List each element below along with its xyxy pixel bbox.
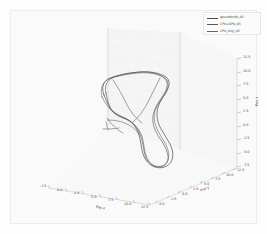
legend-item-cpu-only[interactable]: CPU_only_05: [206, 28, 258, 34]
z-tick-label: 2.5: [243, 110, 248, 113]
z-tick-label: 5.0: [243, 97, 248, 100]
pane-back-right: [180, 32, 237, 168]
z-tick-label: 7.5: [243, 83, 248, 86]
legend-item-cpu-gpu[interactable]: CPU+GPU_05: [206, 22, 258, 28]
x-tick-label: 0.0: [57, 189, 62, 192]
z-tick-label: 12.5: [243, 56, 250, 59]
legend-label: groundtruth_05: [220, 16, 244, 19]
z-axis-label: Pos z: [256, 97, 260, 106]
legend-line-icon: [207, 24, 218, 25]
legend-line-icon: [207, 18, 218, 19]
x-tick-label: 2.5: [74, 192, 79, 195]
axes3d-plot: [0, 0, 267, 234]
x-tick-label: 10.0: [124, 203, 131, 206]
z-tick-label: 0.0: [243, 124, 248, 127]
legend-label: CPU_only_05: [220, 30, 240, 33]
z-tick-label: -2.5: [243, 137, 249, 140]
x-tick-label: 12.5: [141, 206, 148, 209]
z-tick-label: 10.0: [243, 70, 250, 73]
y-tick-label: 2.5: [193, 188, 198, 191]
x-tick-label: -2.5: [40, 185, 46, 188]
z-axis-ticks: [237, 58, 241, 167]
legend-item-groundtruth[interactable]: groundtruth_05: [206, 15, 258, 21]
matplotlib-figure: 12.5 10.0 7.5 5.0 2.5 0.0 -2.5 -5.0 -7.5…: [0, 0, 267, 234]
x-tick-label: 5.0: [91, 196, 96, 199]
y-tick-label: 0.0: [182, 193, 187, 196]
legend-line-icon: [207, 31, 218, 32]
y-tick-label: -2.5: [170, 198, 176, 201]
x-tick-label: 7.5: [108, 199, 113, 202]
legend-label: CPU+GPU_05: [220, 23, 241, 26]
z-tick-label: -5.0: [243, 151, 249, 154]
y-tick-label: 10.0: [226, 174, 233, 177]
legend: groundtruth_05 CPU+GPU_05 CPU_only_05: [203, 12, 261, 35]
y-tick-label: 7.5: [215, 178, 220, 181]
z-tick-label: -7.5: [243, 164, 249, 167]
y-tick-label: 12.5: [237, 169, 244, 172]
y-tick-label: -5.0: [158, 203, 164, 206]
